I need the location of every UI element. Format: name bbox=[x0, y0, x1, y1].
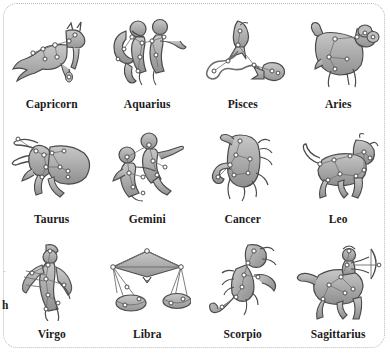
zodiac-cell-aquarius: Aquarius bbox=[100, 4, 196, 119]
zodiac-label: Capricorn bbox=[26, 98, 78, 117]
aquarius-water-bearer-icon bbox=[100, 4, 196, 98]
zodiac-label: Gemini bbox=[129, 213, 166, 232]
zodiac-label: Aquarius bbox=[124, 98, 171, 117]
zodiac-cell-cancer: Cancer bbox=[195, 119, 291, 234]
capricorn-goat-fish-icon bbox=[4, 4, 100, 98]
zodiac-cell-capricorn: Capricorn bbox=[4, 4, 100, 119]
scorpio-scorpion-icon bbox=[195, 234, 291, 328]
zodiac-grid: Capricorn bbox=[4, 4, 386, 349]
zodiac-cell-scorpio: Scorpio bbox=[195, 234, 291, 349]
zodiac-label: Sagittarius bbox=[311, 328, 366, 347]
cancer-crab-icon bbox=[195, 119, 291, 213]
zodiac-cell-virgo: Virgo bbox=[4, 234, 100, 349]
sagittarius-archer-icon bbox=[291, 234, 387, 328]
zodiac-label: Aries bbox=[325, 98, 352, 117]
zodiac-label: Virgo bbox=[38, 328, 66, 347]
zodiac-label: Taurus bbox=[34, 213, 69, 232]
zodiac-cell-gemini: Gemini bbox=[100, 119, 196, 234]
zodiac-cell-libra: Libra bbox=[100, 234, 196, 349]
zodiac-chart-page: · h bbox=[3, 3, 385, 348]
zodiac-label: Cancer bbox=[225, 213, 261, 232]
taurus-bull-icon bbox=[4, 119, 100, 213]
zodiac-label: Leo bbox=[329, 213, 348, 232]
zodiac-label: Scorpio bbox=[224, 328, 262, 347]
virgo-maiden-icon bbox=[4, 234, 100, 328]
libra-scales-icon bbox=[100, 234, 196, 328]
zodiac-label: Pisces bbox=[228, 98, 258, 117]
gemini-twins-icon bbox=[100, 119, 196, 213]
leo-lion-icon bbox=[291, 119, 387, 213]
zodiac-cell-aries: Aries bbox=[291, 4, 387, 119]
zodiac-cell-sagittarius: Sagittarius bbox=[291, 234, 387, 349]
zodiac-cell-leo: Leo bbox=[291, 119, 387, 234]
zodiac-label: Libra bbox=[133, 328, 162, 347]
zodiac-cell-taurus: Taurus bbox=[4, 119, 100, 234]
zodiac-cell-pisces: Pisces bbox=[195, 4, 291, 119]
aries-ram-icon bbox=[291, 4, 387, 98]
pisces-two-fish-icon bbox=[195, 4, 291, 98]
